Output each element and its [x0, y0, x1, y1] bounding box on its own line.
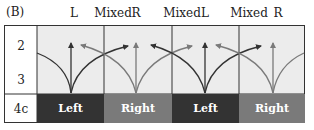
- cell-right: Right: [239, 94, 305, 123]
- cell-left: Left: [37, 94, 104, 123]
- row-label-2: 2: [17, 39, 25, 53]
- cell-right: Right: [104, 94, 172, 123]
- row-label-4c: 4c: [14, 102, 28, 116]
- row-label-3: 3: [17, 73, 25, 87]
- cell-left: Left: [172, 94, 239, 123]
